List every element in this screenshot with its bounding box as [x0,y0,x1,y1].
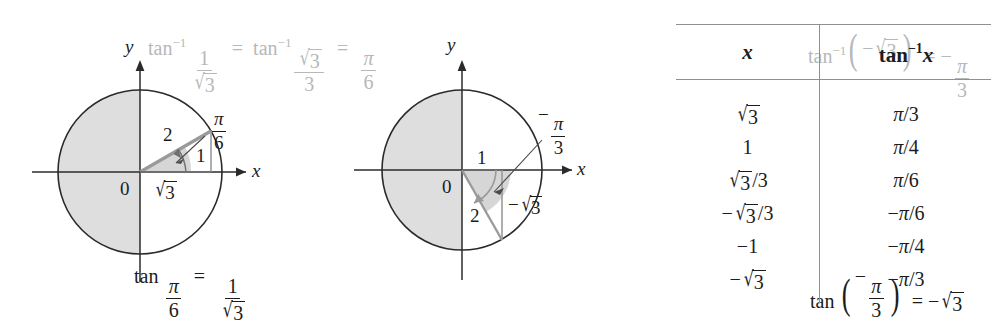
table-cell-arctan: −π/6 [821,203,991,223]
origin-label-right: 0 [442,176,452,198]
table-cell-x: √3/3 [676,170,819,193]
y-axis-label-right: y [447,34,455,56]
hypotenuse-label-left: 2 [163,124,173,146]
opposite-label-right: −√3 [508,195,542,217]
adjacent-label-left: √3 [153,180,177,202]
hypotenuse-label-right: 2 [470,205,480,227]
y-axis-arrow [136,60,145,71]
circle-diagram-left: tan−11√3 = tan−1√33 = π6 tan π6 = 1√3 y … [0,0,340,330]
table-cell-x: 1 [676,137,819,157]
table-cell-arctan: π/3 [821,104,991,124]
x-axis-arrow [562,166,572,175]
table-cell-arctan: π/4 [821,137,991,157]
x-axis-arrow [236,168,246,177]
angle-leader-line [494,140,542,192]
arctan-value-table: x tan−1x √3 π/3 1 π/4 √3/3 π/6 −√3/3 −π/… [672,0,999,330]
y-axis-label-left: y [125,36,133,58]
table-cell-x: −1 [676,236,819,256]
y-axis-arrow [458,60,467,71]
arctan-figure: tan−11√3 = tan−1√33 = π6 tan π6 = 1√3 y … [0,0,999,330]
table-cell-x: −√3/3 [676,203,819,226]
table-cell-x: −√3 [676,269,819,292]
table-top-rule [676,24,991,25]
circle-diagram-right-graphic [330,0,670,330]
table-header-arctan: tan−1x [821,42,991,66]
table-header-x: x [676,42,819,63]
table-cell-arctan: π/6 [821,170,991,190]
table-header-rule [676,79,991,80]
opposite-label-left: 1 [196,145,206,167]
x-axis-label-left: x [252,160,260,182]
equation-bottom-left: tan π6 = 1√3 [134,266,250,323]
circle-diagram-right: tan−1(−√3) = −π3 tan (−π3) = −√3 y x 0 −… [330,0,670,330]
table-cell-x: √3 [676,104,819,127]
table-cell-arctan: −π/3 [821,269,991,289]
adjacent-label-right: 1 [477,147,487,169]
table-column-divider [819,24,820,303]
table-cell-arctan: −π/4 [821,236,991,256]
origin-label-left: 0 [120,178,130,200]
angle-label-left: π6 [209,100,228,153]
angle-label-right: −π3 [538,105,568,158]
x-axis-label-right: x [577,158,585,180]
